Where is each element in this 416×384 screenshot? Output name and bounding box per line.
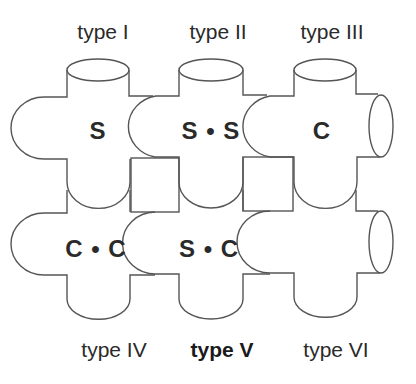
piece-text-type-ii: S • S [182,117,241,145]
puzzle-diagram: type I type II type III S S • S C C • C … [0,0,416,384]
label-type-vi: type VI [303,338,368,362]
connector-square-left [131,158,179,212]
piece-text-type-iii: C [313,117,331,145]
piece-type-vi [237,190,393,317]
piece-text-type-i: S [89,117,106,145]
puzzle-pieces-drawing [0,0,416,384]
label-type-iii: type III [300,20,363,44]
piece-text-type-iv: C • C [65,235,126,263]
label-type-i: type I [77,20,128,44]
label-type-v: type V [190,338,253,362]
connector-square-right [243,157,293,211]
label-type-ii: type II [189,20,246,44]
piece-text-type-v: S • C [179,235,239,263]
label-type-iv: type IV [81,338,146,362]
